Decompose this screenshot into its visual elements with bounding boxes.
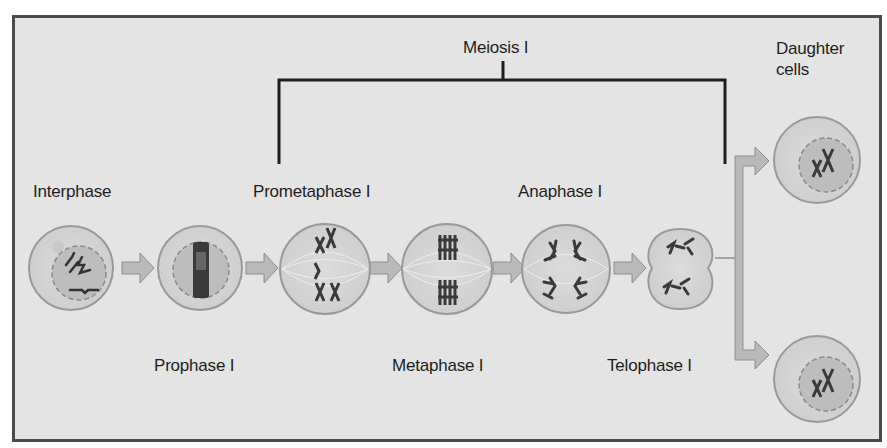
label-daughter-line2: cells: [776, 59, 844, 80]
label-daughter-cells: Daughter cells: [776, 38, 844, 80]
telophase-cell: [648, 229, 712, 309]
label-daughter-line1: Daughter: [776, 38, 844, 59]
meiosis-bracket: [279, 61, 725, 164]
prophase-cell: [158, 226, 242, 310]
arrow-1-icon: [122, 253, 154, 283]
metaphase-cell: [402, 224, 492, 314]
anaphase-cell: [522, 225, 610, 313]
prometaphase-cell: [280, 224, 370, 314]
arrow-5-icon: [614, 253, 646, 283]
arrow-4-icon: [493, 253, 525, 283]
label-metaphase: Metaphase I: [392, 356, 483, 376]
label-prometaphase: Prometaphase I: [253, 182, 370, 202]
label-interphase: Interphase: [33, 182, 111, 202]
daughter-cell-top: [774, 117, 860, 203]
branch-arrow-icon: [715, 147, 769, 369]
label-telophase: Telophase I: [607, 356, 692, 376]
arrow-3-icon: [370, 253, 402, 283]
interphase-cell: [29, 226, 113, 310]
meiosis-diagram: [0, 0, 887, 448]
label-anaphase: Anaphase I: [518, 182, 602, 202]
daughter-cell-bottom: [774, 336, 860, 422]
label-prophase: Prophase I: [154, 356, 234, 376]
meiosis-i-title: Meiosis I: [463, 38, 528, 58]
arrow-2-icon: [246, 253, 278, 283]
